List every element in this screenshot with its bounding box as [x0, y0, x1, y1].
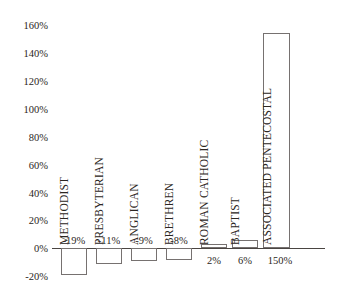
bar-methodist	[61, 248, 87, 275]
y-tick-label-100: 100%	[24, 104, 49, 115]
y-tick-label-120: 120%	[24, 76, 49, 87]
y-tick-label-160: 160%	[24, 20, 49, 31]
bar-brethren	[166, 248, 192, 260]
y-tick-label-60: 60%	[29, 160, 48, 171]
data-label-presbyterian: -11%	[91, 235, 127, 246]
category-label-associated-pentecostal: ASSOCIATED PENTECOSTAL	[261, 88, 273, 245]
data-label-associated-pentecostal: 150%	[259, 255, 301, 266]
category-label-presbyterian: PRESBYTERIAN	[93, 157, 105, 245]
data-label-brethren: -8%	[161, 235, 197, 246]
data-label-anglican: -9%	[126, 235, 162, 246]
y-tick-label-40: 40%	[29, 188, 48, 199]
y-tick-label-80: 80%	[29, 132, 48, 143]
y-tick-label-0: 0%	[34, 243, 48, 254]
y-tick-label-20: 20%	[29, 215, 48, 226]
category-label-roman-catholic: ROMAN CATHOLIC	[198, 140, 210, 245]
category-label-baptist: BAPTIST	[229, 197, 241, 245]
bar-chart: 160% 140% 120% 100% 80% 60% 40% 20% 0% -…	[0, 0, 342, 298]
y-tick-label-140: 140%	[24, 48, 49, 59]
bar-presbyterian	[96, 248, 122, 264]
y-axis: 160% 140% 120% 100% 80% 60% 40% 20% 0% -…	[0, 0, 48, 298]
y-tick-label-neg20: -20%	[25, 271, 48, 282]
data-label-methodist: -19%	[56, 235, 92, 246]
bar-anglican	[131, 248, 157, 261]
data-label-baptist: 6%	[227, 255, 263, 266]
